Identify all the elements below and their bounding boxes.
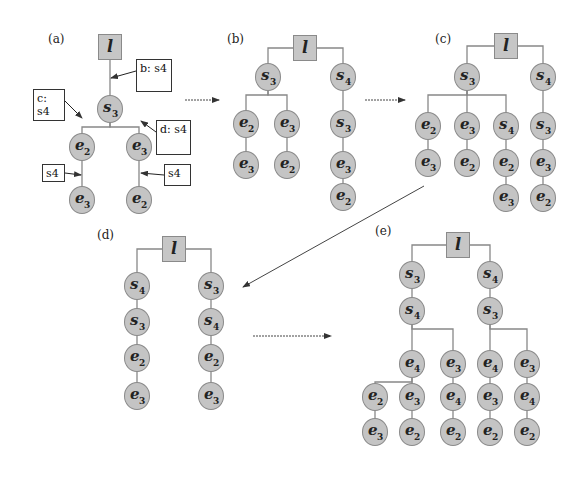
node-symbol: s xyxy=(204,311,212,329)
tree-node-s3: s3 xyxy=(124,308,150,336)
node-subscript: 2 xyxy=(345,197,351,207)
tree-node-e2: e2 xyxy=(198,344,224,372)
root-node-d: l xyxy=(162,236,186,262)
tree-node-s3: s3 xyxy=(399,261,425,289)
tree-node-e2: e2 xyxy=(454,149,480,177)
node-symbol: s xyxy=(204,275,212,293)
node-subscript: 3 xyxy=(270,77,276,87)
tree-node-e2: e2 xyxy=(124,344,150,372)
tree-node-e3: e3 xyxy=(362,418,388,446)
node-symbol: s xyxy=(460,66,468,84)
node-subscript: 3 xyxy=(141,147,147,157)
tree-node-e3: e3 xyxy=(198,382,224,410)
node-subscript: 3 xyxy=(492,397,498,407)
node-subscript: 3 xyxy=(345,124,351,134)
node-subscript: 3 xyxy=(112,109,118,119)
tree-node-e3: e3 xyxy=(274,110,300,138)
node-subscript: 4 xyxy=(213,322,219,332)
node-subscript: 4 xyxy=(414,311,420,321)
root-label: l xyxy=(455,235,461,254)
node-symbol: s xyxy=(130,275,138,293)
tree-node-e3: e3 xyxy=(493,184,519,212)
tree-node-e2: e2 xyxy=(440,418,466,446)
node-subscript: 4 xyxy=(492,364,498,374)
node-subscript: 2 xyxy=(545,198,551,208)
root-node-c: l xyxy=(494,33,518,59)
node-subscript: 3 xyxy=(213,396,219,406)
annotation-box: s4 xyxy=(42,164,65,182)
tree-node-e3: e3 xyxy=(399,383,425,411)
node-subscript: 3 xyxy=(289,124,295,134)
node-subscript: 3 xyxy=(414,397,420,407)
node-subscript: 3 xyxy=(414,275,420,285)
tree-node-e4: e4 xyxy=(440,383,466,411)
tree-node-e2: e2 xyxy=(415,112,441,140)
figure-canvas: (a)ls3e2e3e3e2b: s4c: s4d: s4s4s4(b)ls3s… xyxy=(0,0,584,480)
tree-node-e2: e2 xyxy=(399,418,425,446)
node-subscript: 4 xyxy=(414,364,420,374)
node-symbol: s xyxy=(499,115,507,133)
node-subscript: 4 xyxy=(345,77,351,87)
node-subscript: 3 xyxy=(529,364,535,374)
node-subscript: 2 xyxy=(377,397,383,407)
tree-node-s4: s4 xyxy=(330,63,356,91)
tree-node-s3: s3 xyxy=(477,297,503,325)
tree-node-e2: e2 xyxy=(514,418,540,446)
tree-node-e3: e3 xyxy=(69,186,95,214)
tree-node-e2: e2 xyxy=(233,110,259,138)
node-subscript: 3 xyxy=(213,286,219,296)
panel-label-b: (b) xyxy=(227,32,244,46)
annotation-box: d: s4 xyxy=(156,120,191,155)
node-symbol: s xyxy=(405,264,413,282)
node-subscript: 3 xyxy=(248,165,254,175)
node-subscript: 2 xyxy=(455,432,461,442)
tree-node-e2: e2 xyxy=(69,133,95,161)
tree-node-e3: e3 xyxy=(440,350,466,378)
tree-node-s3: s3 xyxy=(330,110,356,138)
tree-node-e3: e3 xyxy=(124,382,150,410)
tree-node-e3: e3 xyxy=(330,151,356,179)
node-subscript: 2 xyxy=(492,432,498,442)
tree-node-e3: e3 xyxy=(454,112,480,140)
root-label: l xyxy=(302,38,308,57)
root-label: l xyxy=(171,239,177,258)
node-subscript: 4 xyxy=(529,397,535,407)
node-subscript: 4 xyxy=(492,275,498,285)
node-subscript: 3 xyxy=(492,311,498,321)
node-subscript: 3 xyxy=(345,165,351,175)
root-node-a: l xyxy=(98,34,122,60)
tree-node-e2: e2 xyxy=(493,149,519,177)
node-subscript: 2 xyxy=(289,165,295,175)
root-node-e: l xyxy=(446,232,470,258)
node-subscript: 4 xyxy=(139,286,145,296)
tree-node-e3: e3 xyxy=(233,151,259,179)
node-symbol: s xyxy=(405,300,413,318)
annotation-box: b: s4 xyxy=(136,59,172,92)
node-subscript: 2 xyxy=(248,124,254,134)
node-subscript: 3 xyxy=(469,126,475,136)
annotation-box: s4 xyxy=(164,164,191,186)
node-subscript: 2 xyxy=(508,163,514,173)
tree-node-e2: e2 xyxy=(330,183,356,211)
node-subscript: 2 xyxy=(469,163,475,173)
tree-node-e2: e2 xyxy=(362,383,388,411)
node-symbol: s xyxy=(536,66,544,84)
panel-label-a: (a) xyxy=(48,32,65,46)
tree-node-e2: e2 xyxy=(530,184,556,212)
node-symbol: s xyxy=(336,113,344,131)
node-subscript: 3 xyxy=(455,364,461,374)
node-subscript: 4 xyxy=(455,397,461,407)
panel-label-e: (e) xyxy=(375,224,391,238)
node-subscript: 3 xyxy=(139,396,145,406)
root-label: l xyxy=(107,37,113,56)
tree-node-e3: e3 xyxy=(477,383,503,411)
node-subscript: 2 xyxy=(430,126,436,136)
tree-node-e3: e3 xyxy=(415,149,441,177)
node-symbol: s xyxy=(130,311,138,329)
tree-node-e4: e4 xyxy=(477,350,503,378)
tree-node-s4: s4 xyxy=(399,297,425,325)
node-subscript: 2 xyxy=(414,432,420,442)
node-subscript: 3 xyxy=(377,432,383,442)
node-subscript: 3 xyxy=(545,126,551,136)
node-symbol: s xyxy=(483,264,491,282)
